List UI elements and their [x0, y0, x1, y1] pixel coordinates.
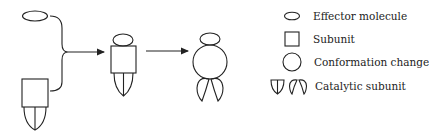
activated-complex [193, 33, 227, 101]
legend-label-catalytic: Catalytic subunit [315, 80, 406, 92]
bound-complex [111, 34, 136, 96]
circle-icon [283, 53, 301, 71]
square-icon [285, 32, 299, 46]
effector-molecule-free [23, 11, 48, 21]
merge-bracket [50, 16, 68, 91]
subunit-with-catalytic-free [22, 79, 48, 130]
catalytic-subunit-icon [271, 80, 307, 94]
ellipse-icon [285, 12, 300, 20]
legend-label-subunit: Subunit [313, 33, 355, 45]
legend-label-effector: Effector molecule [313, 10, 407, 22]
legend-label-conformation: Conformation change [314, 56, 429, 68]
